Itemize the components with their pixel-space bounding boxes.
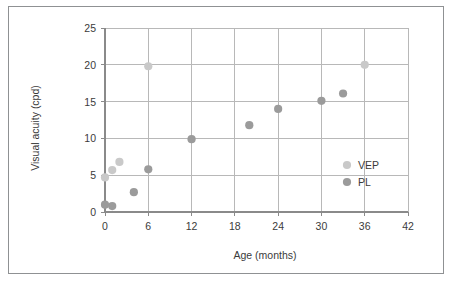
point-vep-0-4.7 — [101, 173, 109, 181]
point-pl-4-2.7 — [130, 188, 138, 196]
y-axis-tick-labels: 0510152025 — [84, 22, 96, 218]
y-tick-label-5: 5 — [90, 169, 96, 181]
legend-marker-pl — [343, 178, 351, 186]
y-tick-label-25: 25 — [84, 22, 96, 34]
point-pl-24-14 — [274, 105, 282, 113]
x-tick-label-24: 24 — [272, 220, 284, 232]
point-vep-6-19.8 — [144, 62, 152, 70]
point-vep-2-6.8 — [115, 158, 123, 166]
x-tick-label-18: 18 — [229, 220, 241, 232]
x-tick-label-36: 36 — [359, 220, 371, 232]
point-vep-36-20 — [361, 61, 369, 69]
point-pl-12-9.9 — [187, 135, 195, 143]
x-tick-label-0: 0 — [102, 220, 108, 232]
legend-label-pl: PL — [358, 176, 371, 188]
y-axis-title: Visual acuity (cpd) — [29, 85, 41, 171]
y-tick-label-10: 10 — [84, 132, 96, 144]
chart-svg: 0510152025 06121824303642 VEPPL Age (mon… — [9, 7, 445, 275]
x-tick-label-30: 30 — [316, 220, 328, 232]
point-vep-1-5.7 — [108, 166, 116, 174]
x-tick-label-42: 42 — [402, 220, 414, 232]
point-pl-20-11.8 — [245, 121, 253, 129]
point-pl-30-15.1 — [317, 97, 325, 105]
x-axis-tick-labels: 06121824303642 — [102, 220, 414, 232]
y-tick-label-0: 0 — [90, 206, 96, 218]
x-axis-title: Age (months) — [233, 249, 296, 261]
scatter-chart: 0510152025 06121824303642 VEPPL Age (mon… — [9, 7, 445, 275]
horizontal-gridlines — [105, 28, 408, 175]
point-pl-33-16.1 — [339, 89, 347, 97]
figure-card: 0510152025 06121824303642 VEPPL Age (mon… — [8, 6, 444, 274]
series-pl — [101, 89, 347, 210]
chart-legend: VEPPL — [343, 159, 379, 188]
x-tick-label-12: 12 — [186, 220, 198, 232]
y-tick-label-15: 15 — [84, 96, 96, 108]
x-tick-label-6: 6 — [145, 220, 151, 232]
y-tick-label-20: 20 — [84, 59, 96, 71]
point-pl-0-1 — [101, 201, 109, 209]
point-pl-6-5.8 — [144, 165, 152, 173]
legend-marker-vep — [343, 161, 351, 169]
legend-label-vep: VEP — [358, 159, 379, 171]
point-pl-1-0.8 — [108, 202, 116, 210]
